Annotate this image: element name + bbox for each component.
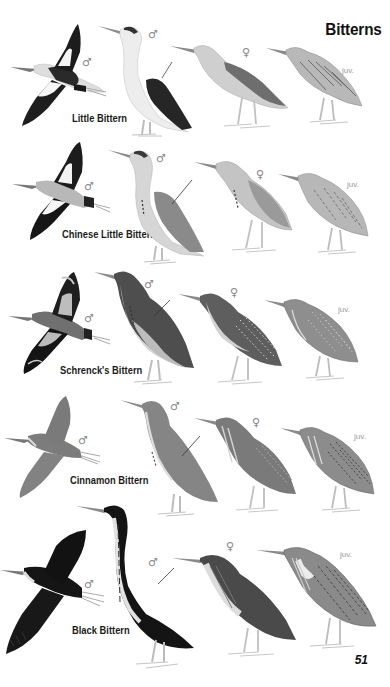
chinese-little-bittern-flight-male-illustration	[10, 142, 110, 242]
sex-symbol: ♀	[256, 168, 264, 181]
black-bittern-juvenile-illustration	[254, 544, 384, 658]
little-bittern-juvenile-illustration	[264, 44, 364, 128]
sex-symbol: ♂	[148, 556, 158, 569]
sex-symbol: ♂	[82, 56, 92, 69]
juvenile-label: juv.	[354, 432, 366, 441]
field-guide-page: Bitterns ♂ Little Bittern ♂	[0, 0, 390, 687]
sex-symbol: ♀	[242, 46, 250, 59]
sex-symbol: ♂	[156, 152, 166, 165]
sex-symbol: ♂	[84, 180, 94, 193]
page-title: Bitterns	[326, 20, 382, 40]
sex-symbol: ♂	[78, 434, 88, 447]
juvenile-label: juv.	[342, 66, 354, 75]
page-number: 51	[355, 653, 368, 667]
sex-symbol: ♂	[170, 400, 180, 413]
juvenile-label: juv.	[347, 180, 359, 189]
sex-symbol: ♂	[148, 28, 158, 41]
juvenile-label: juv.	[338, 305, 350, 314]
sex-symbol: ♂	[144, 278, 154, 291]
sex-symbol: ♀	[252, 416, 260, 429]
juvenile-label: juv.	[340, 550, 352, 559]
sex-symbol: ♀	[230, 286, 238, 299]
sex-symbol: ♀	[226, 540, 234, 553]
